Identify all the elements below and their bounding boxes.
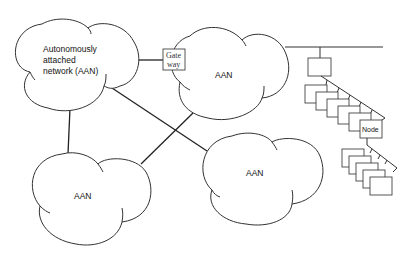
main-aan-line-2: attached <box>43 55 76 65</box>
link-main-to-bottom-left <box>68 108 70 154</box>
link-bottom-left-to-top-center <box>141 113 193 164</box>
gateway-label-1: Gate <box>166 51 182 60</box>
bottom-left-aan-label: AAN <box>74 191 91 201</box>
bottom-right-aan-label: AAN <box>246 168 263 178</box>
main-aan-line-3: network (AAN) <box>43 66 98 76</box>
node-label: Node <box>362 126 379 133</box>
main-aan-line-1: Autonomously <box>43 44 98 54</box>
top-center-aan-label: AAN <box>215 70 232 80</box>
network-diagram: Autonomously attached network (AAN) AAN … <box>0 0 412 261</box>
bus-attached-node <box>308 58 331 76</box>
node-cascade-2 <box>342 138 397 195</box>
cloud-bottom-right-aan <box>203 133 323 225</box>
cloud-bottom-left-aan <box>32 153 151 245</box>
cloud-main-aan <box>15 19 138 111</box>
gateway-label-2: way <box>167 60 180 69</box>
